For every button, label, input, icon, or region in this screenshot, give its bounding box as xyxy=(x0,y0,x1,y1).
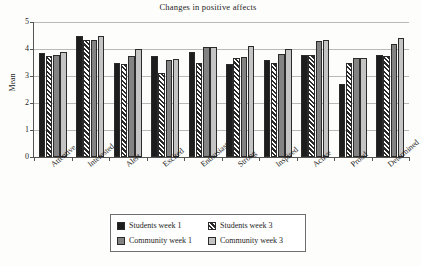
bar xyxy=(189,52,196,157)
legend-item-students-week-1: Students week 1 xyxy=(117,222,208,230)
y-axis-tick-label: 2 xyxy=(16,99,29,107)
bar xyxy=(121,64,128,157)
bar xyxy=(46,56,53,157)
bar xyxy=(60,52,67,157)
bar xyxy=(203,47,210,157)
chart-title: Changes in positive affects xyxy=(0,2,416,12)
x-axis-tick xyxy=(222,157,223,161)
bar xyxy=(91,40,98,157)
chart-legend: Students week 1 Students week 3 Communit… xyxy=(110,214,306,252)
legend-label: Community week 3 xyxy=(220,237,283,245)
legend-swatch-students-week-3 xyxy=(208,222,216,230)
bar xyxy=(158,73,165,157)
legend-label: Students week 1 xyxy=(129,222,181,230)
bar xyxy=(53,55,60,157)
bar xyxy=(323,40,330,157)
bar xyxy=(391,44,398,157)
bar xyxy=(173,59,180,157)
bar-group xyxy=(147,22,185,157)
y-axis-tick-label: 0 xyxy=(16,153,29,161)
bar xyxy=(376,55,383,157)
bar xyxy=(196,63,203,157)
bar xyxy=(233,58,240,157)
bar xyxy=(346,63,353,158)
plot-area: 012345 xyxy=(33,22,409,158)
legend-label: Students week 3 xyxy=(220,222,272,230)
bar xyxy=(76,36,83,157)
bar xyxy=(128,56,135,157)
legend-label: Community week 1 xyxy=(129,237,192,245)
x-axis-tick xyxy=(259,157,260,161)
bar-group xyxy=(259,22,297,157)
bar xyxy=(353,58,360,157)
x-axis-tick xyxy=(372,157,373,161)
bar xyxy=(339,84,346,157)
bar xyxy=(166,60,173,157)
bar xyxy=(241,57,248,157)
bar xyxy=(98,36,105,157)
legend-swatch-community-week-3 xyxy=(208,237,216,245)
x-axis-tick xyxy=(147,157,148,161)
y-axis-tick-label: 1 xyxy=(16,126,29,134)
x-axis-tick xyxy=(34,157,35,161)
bar xyxy=(285,49,292,157)
bar-group xyxy=(297,22,335,157)
bar xyxy=(83,40,90,157)
x-axis-tick xyxy=(409,157,410,161)
bar-group xyxy=(334,22,372,157)
bar xyxy=(360,58,367,157)
x-axis-tick xyxy=(334,157,335,161)
legend-item-students-week-3: Students week 3 xyxy=(208,222,299,230)
legend-item-community-week-1: Community week 1 xyxy=(117,237,208,245)
bar xyxy=(316,41,323,157)
x-axis-tick xyxy=(297,157,298,161)
bar xyxy=(264,60,271,157)
bar xyxy=(39,53,46,157)
bar xyxy=(210,47,217,157)
legend-swatch-students-week-1 xyxy=(117,222,125,230)
x-axis-tick xyxy=(72,157,73,161)
x-axis-tick xyxy=(184,157,185,161)
x-axis-tick xyxy=(109,157,110,161)
legend-row: Students week 1 Students week 3 xyxy=(117,218,299,233)
bar xyxy=(383,56,390,157)
bar-group xyxy=(372,22,410,157)
bar xyxy=(114,63,121,157)
y-axis-tick-label: 3 xyxy=(16,72,29,80)
bar-group xyxy=(109,22,147,157)
bar xyxy=(278,54,285,157)
y-axis-tick-label: 5 xyxy=(16,18,29,26)
bar xyxy=(135,49,142,157)
y-axis-tick-label: 4 xyxy=(16,45,29,53)
bar-group xyxy=(184,22,222,157)
bar xyxy=(398,38,405,157)
bar xyxy=(248,46,255,157)
bar xyxy=(301,55,308,157)
bar xyxy=(271,63,278,157)
bar-group xyxy=(34,22,72,157)
bar xyxy=(308,55,315,157)
bar-group xyxy=(72,22,110,157)
legend-item-community-week-3: Community week 3 xyxy=(208,237,299,245)
legend-row: Community week 1 Community week 3 xyxy=(117,233,299,248)
bar xyxy=(151,56,158,157)
legend-swatch-community-week-1 xyxy=(117,237,125,245)
